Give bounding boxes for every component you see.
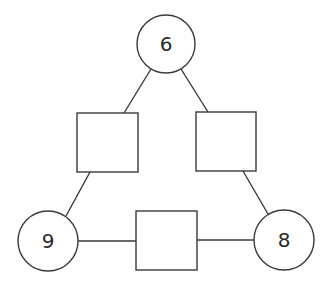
edge-top-to-right-square: [181, 69, 208, 112]
circle-label-bottom-left: 9: [42, 229, 55, 253]
number-triangle-diagram: 6 9 8: [0, 0, 330, 286]
edge-left-square-to-bottom-left: [66, 172, 90, 216]
circle-label-top: 6: [160, 32, 173, 56]
square-box-right[interactable]: [196, 112, 256, 171]
edge-top-to-left-square: [124, 69, 151, 113]
circle-label-bottom-right: 8: [278, 228, 291, 252]
edge-right-square-to-bottom-right: [243, 171, 268, 214]
square-box-left[interactable]: [77, 113, 138, 172]
square-box-bottom[interactable]: [136, 211, 197, 270]
